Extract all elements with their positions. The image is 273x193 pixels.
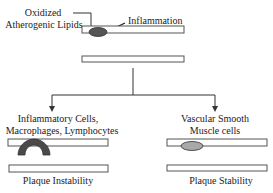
vessel-wall-bar-second [82, 56, 184, 62]
label-plaque-instability: Plaque Instability [23, 175, 93, 186]
label-inflammation: Inflammation [128, 15, 182, 26]
label-inflammatory-cells: Inflammatory Cells, [18, 113, 99, 124]
label-muscle-cells: Muscle cells [190, 125, 240, 136]
label-atherogenic-lipids: Atherogenic Lipids [5, 19, 83, 30]
label-macrophages-lymphocytes: Macrophages, Lymphocytes [6, 125, 119, 136]
lipid-deposit-shape [89, 28, 107, 37]
atherosclerosis-diagram: Oxidized Atherogenic Lipids Inflammation… [0, 0, 273, 193]
diagram-canvas: Oxidized Atherogenic Lipids Inflammation… [0, 0, 273, 193]
vsmc-shape [181, 142, 203, 151]
label-plaque-stability: Plaque Stability [189, 175, 253, 186]
label-oxidized: Oxidized [25, 7, 62, 18]
left-vessel-bar-bottom [9, 165, 108, 172]
label-vascular-smooth: Vascular Smooth [181, 113, 249, 124]
right-vessel-bar-bottom [167, 165, 267, 171]
